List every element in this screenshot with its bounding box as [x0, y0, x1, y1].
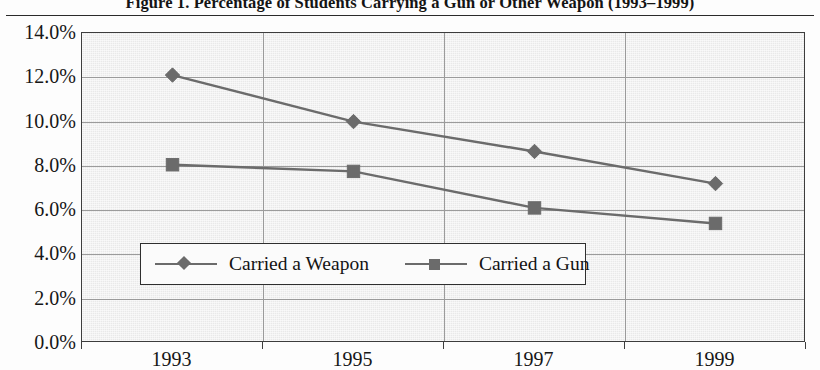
series-line-2 [173, 165, 716, 224]
x-axis-tick-mark [262, 342, 263, 349]
y-axis-tick-label: 0.0% [2, 332, 76, 352]
data-point-marker-diamond [346, 114, 360, 128]
legend-label-carried-a-weapon: Carried a Weapon [229, 253, 369, 275]
x-axis-tick-label: 1999 [655, 349, 775, 369]
y-axis-tick-label: 2.0% [2, 288, 76, 308]
x-axis-tick-mark [805, 342, 806, 349]
y-axis-label-group: 0.0%2.0%4.0%6.0%8.0%10.0%12.0%14.0% [0, 0, 76, 370]
y-axis-tick-label: 10.0% [2, 111, 76, 131]
legend-item-carried-a-gun: Carried a Gun [405, 244, 589, 284]
plot-area [81, 32, 805, 342]
x-axis-tick-mark [443, 342, 444, 349]
data-point-marker-diamond [165, 68, 179, 82]
y-axis-tick-label: 4.0% [2, 243, 76, 263]
legend-label-carried-a-gun: Carried a Gun [479, 253, 589, 275]
figure-container: Figure 1. Percentage of Students Carryin… [0, 0, 820, 370]
series-layer [82, 33, 805, 342]
x-axis-tick-label: 1993 [112, 349, 232, 369]
y-axis-tick-label: 8.0% [2, 155, 76, 175]
x-axis-tick-label: 1997 [474, 349, 594, 369]
chart-legend: Carried a Weapon Carried a Gun [140, 243, 586, 285]
legend-item-carried-a-weapon: Carried a Weapon [155, 244, 369, 284]
y-axis-tick-label: 12.0% [2, 66, 76, 86]
data-point-marker-square [709, 217, 721, 229]
y-axis-tick-label: 14.0% [2, 22, 76, 42]
legend-swatch-diamond-icon [155, 254, 217, 274]
figure-title: Figure 1. Percentage of Students Carryin… [0, 0, 820, 14]
data-point-marker-diamond [527, 144, 541, 158]
x-axis-tick-mark [81, 342, 82, 349]
x-axis-tick-mark [624, 342, 625, 349]
data-point-marker-square [528, 202, 540, 214]
legend-swatch-square-icon [405, 254, 467, 274]
data-point-marker-square [166, 159, 178, 171]
title-divider-rule [6, 15, 814, 16]
data-point-marker-diamond [708, 176, 722, 190]
data-point-marker-square [347, 165, 359, 177]
y-axis-tick-label: 6.0% [2, 199, 76, 219]
x-axis-tick-label: 1995 [293, 349, 413, 369]
